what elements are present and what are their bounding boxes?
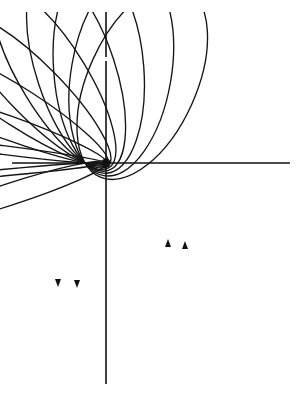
arrow-up-icon [165,239,171,247]
arrow-down-icon [55,279,61,287]
direction-arrows [55,239,188,288]
diagram-canvas [0,0,300,393]
arrow-down-icon [74,280,80,288]
central-body-dot [102,159,111,168]
orbit-ellipse [46,0,152,177]
orbit-diagram [0,0,300,393]
orbit-ellipse [6,0,146,183]
orbit-family [0,0,234,237]
arrow-up-icon [182,241,188,249]
